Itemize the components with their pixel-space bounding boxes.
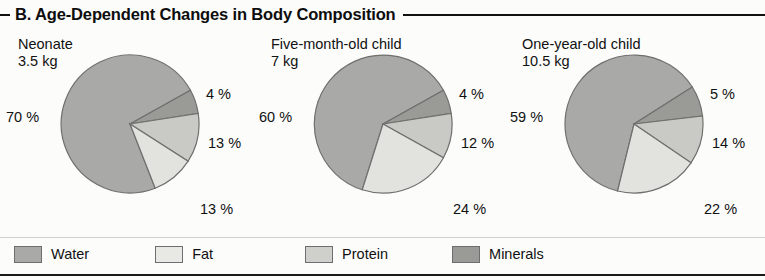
legend-swatch-protein-icon <box>305 246 333 263</box>
figure-panel-b: B. Age-Dependent Changes in Body Composi… <box>0 0 765 280</box>
pie-label-water: 70 % <box>6 110 39 125</box>
bottom-rule <box>0 274 765 276</box>
pie-label-water: 60 % <box>259 110 292 125</box>
legend-label-minerals: Minerals <box>489 247 544 262</box>
chart-cell-five-month-old: Five-month-old child 7 kg <box>253 32 508 235</box>
charts-band: Neonate 3.5 kg 70 % <box>0 32 765 235</box>
pie-label-minerals: 5 % <box>710 87 735 102</box>
pie-svg <box>564 54 704 194</box>
legend-item-water: Water <box>14 246 89 263</box>
pie-label-minerals: 4 % <box>206 87 231 102</box>
legend-label-water: Water <box>51 247 89 262</box>
pie-chart-five-month-old <box>313 54 453 194</box>
pie-label-minerals: 4 % <box>459 87 484 102</box>
legend-item-minerals: Minerals <box>452 246 544 263</box>
pie-chart-one-year-old <box>564 54 704 194</box>
chart-cell-one-year-old: One-year-old child 10.5 kg <box>504 32 759 235</box>
panel-title-bar: B. Age-Dependent Changes in Body Composi… <box>0 0 765 30</box>
pie-svg <box>313 54 453 194</box>
chart-subject-label: Neonate <box>18 36 73 52</box>
title-rule-right <box>403 14 765 16</box>
pie-label-protein: 14 % <box>712 136 745 151</box>
legend-swatch-minerals-icon <box>452 246 480 263</box>
chart-subject-label: Five-month-old child <box>271 36 402 52</box>
legend-label-protein: Protein <box>342 247 388 262</box>
pie-svg <box>60 54 200 194</box>
legend-label-fat: Fat <box>192 247 213 262</box>
pie-label-water: 59 % <box>510 110 543 125</box>
legend-swatch-fat-icon <box>155 246 183 263</box>
pie-label-protein: 12 % <box>461 136 494 151</box>
chart-cell-neonate: Neonate 3.5 kg 70 % <box>0 32 255 235</box>
legend: Water Fat Protein Minerals <box>0 238 765 270</box>
legend-item-fat: Fat <box>155 246 213 263</box>
pie-label-fat: 24 % <box>453 202 486 217</box>
legend-swatch-water-icon <box>14 246 42 263</box>
pie-label-fat: 22 % <box>704 202 737 217</box>
page-title: B. Age-Dependent Changes in Body Composi… <box>15 6 396 24</box>
pie-chart-neonate <box>60 54 200 194</box>
pie-label-fat: 13 % <box>200 202 233 217</box>
title-rule-left <box>0 14 10 16</box>
legend-item-protein: Protein <box>305 246 388 263</box>
pie-label-protein: 13 % <box>208 136 241 151</box>
chart-subject-label: One-year-old child <box>522 36 640 52</box>
